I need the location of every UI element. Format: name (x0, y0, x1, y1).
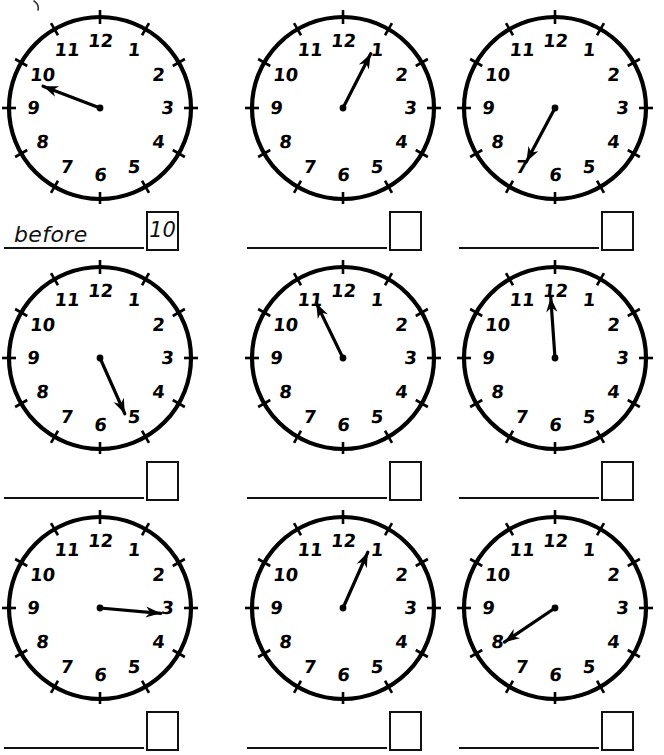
worksheet-item: 121234567891011 (0, 508, 215, 755)
clock-numeral: 2 (151, 564, 166, 585)
clock-numeral: 6 (548, 165, 563, 186)
clock-numeral: 7 (303, 406, 318, 427)
clock-numeral: 5 (582, 656, 597, 677)
clock-numeral: 6 (548, 415, 563, 436)
clock-numeral: 7 (60, 656, 75, 677)
clock-numeral: 10 (272, 564, 299, 585)
clock-numeral: 11 (297, 40, 324, 61)
clock-numeral: 9 (269, 348, 284, 369)
clock-center-pivot (552, 355, 559, 362)
clock-numeral: 11 (54, 540, 81, 561)
clock-numeral: 11 (54, 290, 81, 311)
answer-write-line[interactable] (247, 747, 387, 749)
clock-container: 121234567891011 (243, 508, 448, 703)
clock-face-5: 121234567891011 (243, 258, 448, 454)
clock-container: 121234567891011 (0, 8, 205, 203)
answer-write-line[interactable] (4, 747, 144, 749)
clock-numeral: 4 (606, 631, 621, 652)
answer-write-line[interactable] (459, 497, 599, 499)
clock-numeral: 6 (548, 665, 563, 686)
answer-number-box[interactable]: 10 (146, 211, 179, 251)
clock-numeral: 5 (370, 656, 385, 677)
clock-numeral: 11 (297, 540, 324, 561)
clock-numeral: 4 (394, 381, 409, 402)
answer-write-line[interactable] (247, 247, 387, 249)
clock-numeral: 2 (394, 564, 409, 585)
clock-numeral: 6 (336, 165, 351, 186)
clock-numeral: 1 (582, 290, 597, 311)
clock-face-1: 121234567891011 (0, 8, 205, 204)
clock-numeral: 8 (35, 131, 50, 152)
answer-write-line[interactable] (459, 247, 599, 249)
answer-row (243, 454, 448, 502)
clock-face-8: 121234567891011 (243, 508, 448, 704)
worksheet-item: 121234567891011 (455, 8, 664, 256)
worksheet-item: 121234567891011 (243, 508, 458, 755)
clock-numeral: 3 (403, 98, 418, 119)
clock-numeral: 9 (269, 98, 284, 119)
clock-numeral: 4 (606, 381, 621, 402)
clock-numeral: 9 (269, 598, 284, 619)
clock-numeral: 8 (278, 131, 293, 152)
answer-number-box[interactable] (389, 461, 422, 501)
answer-number-box[interactable] (146, 461, 179, 501)
clock-numeral: 4 (151, 381, 166, 402)
answer-row (0, 454, 205, 502)
clock-numeral: 9 (481, 348, 496, 369)
answer-write-line[interactable] (459, 747, 599, 749)
clock-numeral: 6 (93, 165, 108, 186)
clock-numeral: 8 (490, 381, 505, 402)
clock-numeral: 5 (582, 156, 597, 177)
clock-numeral: 3 (403, 348, 418, 369)
clock-container: 121234567891011 (0, 508, 205, 703)
clock-center-pivot (552, 105, 559, 112)
clock-numeral: 1 (127, 540, 142, 561)
answer-number-box[interactable] (601, 211, 634, 251)
answer-number-box[interactable] (389, 211, 422, 251)
answer-write-line[interactable] (4, 247, 144, 249)
clock-numeral: 1 (370, 40, 385, 61)
clock-numeral: 11 (509, 540, 536, 561)
clock-numeral: 2 (606, 314, 621, 335)
clock-numeral: 12 (542, 31, 569, 52)
clock-numeral: 2 (394, 314, 409, 335)
worksheet-item: 121234567891011 (243, 8, 458, 256)
clock-numeral: 5 (370, 156, 385, 177)
clock-face-2: 121234567891011 (243, 8, 448, 204)
clock-numeral: 9 (26, 598, 41, 619)
clock-numeral: 1 (370, 540, 385, 561)
clock-numeral: 3 (160, 348, 175, 369)
answer-number-box[interactable] (601, 461, 634, 501)
clock-face-7: 121234567891011 (0, 508, 205, 704)
clock-numeral: 2 (606, 64, 621, 85)
clock-numeral: 1 (582, 40, 597, 61)
clock-center-pivot (340, 355, 347, 362)
answer-row (0, 704, 205, 752)
clock-numeral: 3 (160, 598, 175, 619)
clock-numeral: 6 (93, 415, 108, 436)
clock-center-pivot (340, 605, 347, 612)
answer-number-box[interactable] (601, 711, 634, 751)
clock-container: 121234567891011 (455, 508, 660, 703)
clock-numeral: 10 (484, 64, 511, 85)
clock-numeral: 4 (606, 131, 621, 152)
clock-numeral: 12 (87, 31, 114, 52)
answer-word-text: before (14, 224, 88, 246)
worksheet-item: 121234567891011 (455, 258, 664, 506)
clock-numeral: 5 (127, 656, 142, 677)
clock-numeral: 7 (303, 656, 318, 677)
clock-numeral: 10 (484, 314, 511, 335)
clock-container: 121234567891011 (0, 258, 205, 453)
clock-numeral: 10 (29, 64, 56, 85)
answer-write-line[interactable] (247, 497, 387, 499)
clock-face-4: 121234567891011 (0, 258, 205, 454)
clock-numeral: 10 (29, 564, 56, 585)
answer-number-box[interactable] (389, 711, 422, 751)
clock-numeral: 5 (127, 156, 142, 177)
clock-numeral: 11 (54, 40, 81, 61)
answer-row (455, 454, 660, 502)
clock-numeral: 4 (151, 131, 166, 152)
answer-number-box[interactable] (146, 711, 179, 751)
clock-numeral: 12 (330, 531, 357, 552)
answer-write-line[interactable] (4, 497, 144, 499)
